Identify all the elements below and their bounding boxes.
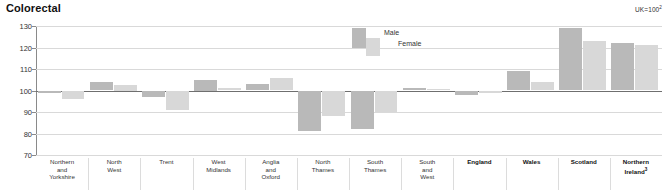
index-note: UK=1002 [635,5,662,13]
category-label-line: West [193,158,245,166]
category-label: Wales [506,158,558,166]
bar-female [270,78,293,91]
category-label-line: Trent [140,158,192,166]
bar-male [611,43,634,90]
category-separator [401,158,402,190]
category-label-line: West [401,173,453,181]
category-separator [453,158,454,190]
bar-group [297,26,349,155]
bar-male [142,91,165,97]
bar-male [351,91,374,130]
category-label: NorthernandYorkshire [36,158,88,181]
colorectal-index-chart: Colorectal UK=1002 708090100110120130 No… [0,0,668,190]
category-separator [506,158,507,190]
bar-group [245,26,297,155]
category-label-line: Thames [297,166,349,174]
category-label: England [453,158,505,166]
category-label-line: Yorkshire [36,173,88,181]
category-separator [610,158,611,190]
bar-male [559,28,582,90]
bar-female [62,91,85,100]
category-label-line: Oxford [245,173,297,181]
y-tick-label-90: 90 [24,108,32,117]
category-label-line: Northern [36,158,88,166]
bar-female [218,88,241,90]
category-label-line: North [297,158,349,166]
category-separator [558,158,559,190]
bar-group [558,26,610,155]
category-label-line: West [88,166,140,174]
category-label-line: Wales [506,158,558,166]
index-note-superscript: 2 [659,5,662,10]
chart-title: Colorectal [6,2,61,14]
bar-female [583,41,606,90]
bar-female [166,91,189,110]
legend-swatch-female [366,38,380,56]
category-label: NorthThames [297,158,349,173]
legend-swatch-male [352,28,366,48]
category-label-line: Northern [610,158,662,166]
bar-group [140,26,192,155]
y-tick-label-110: 110 [20,65,32,74]
index-note-text: UK=100 [635,6,659,13]
bar-female [322,91,345,117]
bar-female [114,85,137,90]
bar-female [635,45,658,90]
bar-groups [36,26,662,155]
chart-legend: Male Female [352,28,472,58]
category-label-line: Midlands [193,166,245,174]
y-tick-70 [32,155,36,156]
category-label-line: South [401,158,453,166]
category-separator [349,158,350,190]
category-separator [245,158,246,190]
gridline-70 [36,155,662,156]
bar-group [506,26,558,155]
bar-female [375,91,398,113]
category-separator [88,158,89,190]
bar-male [90,82,113,91]
bar-female [479,91,502,93]
y-tick-label-120: 120 [19,43,32,52]
category-label: SouthandWest [401,158,453,181]
bar-group [193,26,245,155]
bar-male [194,80,217,91]
legend-label-female: Female [398,40,421,47]
category-label-line: Ireland3 [610,166,662,176]
bar-male [38,91,61,93]
category-label-line: England [453,158,505,166]
bar-female [531,82,554,91]
bar-group [36,26,88,155]
bar-female [427,89,450,90]
bar-male [403,88,426,90]
category-superscript: 3 [645,167,648,172]
category-label: WestMidlands [193,158,245,173]
legend-label-male: Male [384,29,399,36]
category-label: Trent [140,158,192,166]
category-label-line: and [245,166,297,174]
bar-male [246,84,269,90]
category-label: AngliaandOxford [245,158,297,181]
category-label-line: North [88,158,140,166]
bar-male [455,91,478,95]
category-label: SouthThames [349,158,401,173]
category-separator [193,158,194,190]
y-tick-label-100: 100 [19,86,32,95]
category-label: NorthWest [88,158,140,173]
bar-group [610,26,662,155]
bar-male [507,71,530,90]
category-label-line: Scotland [558,158,610,166]
category-label-line: South [349,158,401,166]
y-axis-labels: 708090100110120130 [0,26,32,155]
category-label-line: and [401,166,453,174]
y-tick-label-130: 130 [19,22,32,31]
x-axis-categories: NorthernandYorkshireNorthWestTrentWestMi… [36,158,662,190]
category-label-line: Anglia [245,158,297,166]
category-separator [297,158,298,190]
category-label: NorthernIreland3 [610,158,662,175]
bar-group [88,26,140,155]
y-tick-label-70: 70 [24,151,32,160]
category-label-line: Thames [349,166,401,174]
category-label: Scotland [558,158,610,166]
category-label-line: and [36,166,88,174]
y-tick-label-80: 80 [24,129,32,138]
